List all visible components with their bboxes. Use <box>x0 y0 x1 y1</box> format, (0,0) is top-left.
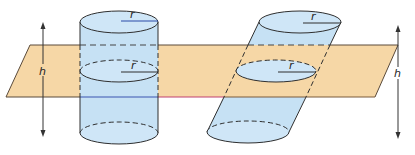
right-cylinder-top-ellipse <box>259 11 341 33</box>
cutting-plane <box>6 45 398 97</box>
right-height-label: h <box>394 67 401 80</box>
left-cylinder-top-ellipse <box>80 11 158 33</box>
right-height-arrow: h <box>394 25 401 139</box>
arrowhead-down-icon <box>396 132 401 139</box>
arrowhead-up-icon <box>396 25 401 32</box>
arrowhead-down-icon <box>41 130 46 137</box>
right-bottom-ellipse-front <box>207 132 289 143</box>
arrowhead-up-icon <box>41 22 46 29</box>
left-height-label: h <box>39 65 46 78</box>
plane-fill <box>6 45 398 97</box>
left-bottom-ellipse-front <box>80 133 158 144</box>
cylinders-diagram: r r r r h h <box>0 0 415 155</box>
